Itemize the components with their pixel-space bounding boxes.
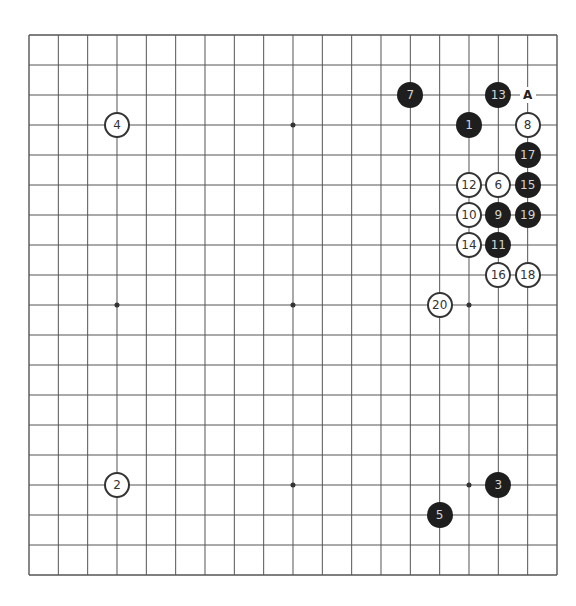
- point-label[interactable]: A: [520, 87, 536, 103]
- black-stone: 15: [515, 172, 541, 198]
- black-stone: 13: [485, 82, 511, 108]
- move-number: 3: [494, 479, 502, 491]
- move-number: 13: [491, 89, 506, 101]
- move-number: 12: [461, 179, 476, 191]
- white-stone: 4: [104, 112, 130, 138]
- move-number: 7: [407, 89, 415, 101]
- white-stone: 20: [427, 292, 453, 318]
- white-stone: 14: [456, 232, 482, 258]
- black-stone: 7: [397, 82, 423, 108]
- white-stone: 12: [456, 172, 482, 198]
- move-number: 18: [520, 269, 535, 281]
- move-number: 1: [465, 119, 473, 131]
- move-number: 20: [432, 299, 447, 311]
- move-number: 15: [520, 179, 535, 191]
- move-number: 17: [520, 149, 535, 161]
- black-stone: 1: [456, 112, 482, 138]
- black-stone: 3: [485, 472, 511, 498]
- star-point: [466, 483, 471, 488]
- move-number: 10: [461, 209, 476, 221]
- white-stone: 16: [485, 262, 511, 288]
- black-stone: 11: [485, 232, 511, 258]
- white-stone: 2: [104, 472, 130, 498]
- black-stone: 9: [485, 202, 511, 228]
- move-number: 9: [494, 209, 502, 221]
- white-stone: 18: [515, 262, 541, 288]
- move-number: 6: [494, 179, 502, 191]
- star-point: [290, 483, 295, 488]
- move-number: 2: [113, 479, 121, 491]
- star-point: [114, 303, 119, 308]
- star-point: [290, 123, 295, 128]
- move-number: 5: [436, 509, 444, 521]
- move-number: 14: [461, 239, 476, 251]
- white-stone: 10: [456, 202, 482, 228]
- star-point: [466, 303, 471, 308]
- move-number: 19: [520, 209, 535, 221]
- move-number: 8: [524, 119, 532, 131]
- star-point: [290, 303, 295, 308]
- move-number: 11: [491, 239, 506, 251]
- black-stone: 19: [515, 202, 541, 228]
- go-board[interactable]: 1234567891011121314151617181920 A: [0, 0, 576, 606]
- black-stone: 17: [515, 142, 541, 168]
- black-stone: 5: [427, 502, 453, 528]
- move-number: 4: [113, 119, 121, 131]
- move-number: 16: [491, 269, 506, 281]
- white-stone: 8: [515, 112, 541, 138]
- white-stone: 6: [485, 172, 511, 198]
